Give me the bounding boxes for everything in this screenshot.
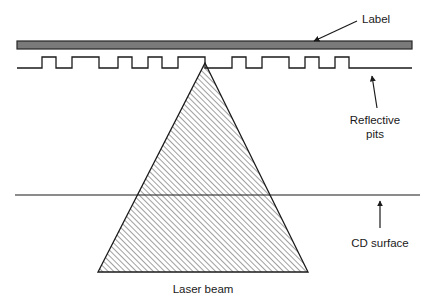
laser-beam-cone	[98, 63, 308, 272]
reflective-pits-callout-text-line2: pits	[366, 128, 384, 140]
laser-beam-triangle	[98, 63, 308, 272]
laser-beam-caption-text: Laser beam	[173, 283, 234, 295]
label-callout-text: Label	[362, 13, 390, 25]
reflective-pits-callout-text-line1: Reflective	[350, 114, 401, 126]
disc-label-bar	[17, 41, 412, 49]
cd-cross-section-diagram: Label Reflective pits CD surface Laser b…	[0, 0, 434, 306]
cd-surface-callout-text: CD surface	[351, 237, 409, 249]
reflective-pit-profile	[17, 57, 412, 68]
label-callout: Label	[314, 13, 390, 41]
label-callout-arrow	[314, 21, 357, 41]
cd-surface-callout: CD surface	[351, 201, 409, 249]
reflective-pits-callout-arrow	[372, 76, 377, 108]
disc-label-bar-group	[17, 41, 412, 49]
cd-diagram-figure: Label Reflective pits CD surface Laser b…	[0, 0, 434, 306]
reflective-pits-callout: Reflective pits	[350, 76, 401, 140]
pit-profile-path	[17, 57, 412, 68]
